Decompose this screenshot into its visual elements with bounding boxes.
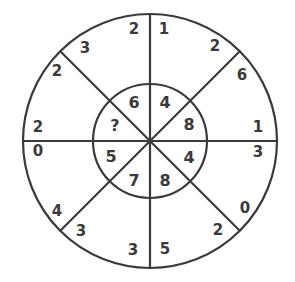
outer-number: 2 bbox=[210, 37, 220, 55]
outer-number: 2 bbox=[129, 20, 139, 38]
inner-number: 8 bbox=[159, 171, 170, 190]
outer-number: 3 bbox=[80, 39, 90, 57]
outer-number: 1 bbox=[253, 118, 263, 136]
outer-number: 2 bbox=[52, 62, 62, 80]
inner-number: 4 bbox=[183, 148, 194, 167]
outer-number: 0 bbox=[33, 142, 43, 160]
number-wheel-puzzle: 6484875? 2126130253340223 bbox=[0, 0, 295, 282]
outer-number: 0 bbox=[240, 199, 250, 217]
outer-number: 5 bbox=[160, 240, 170, 258]
outer-number: 3 bbox=[128, 241, 138, 259]
inner-number: 7 bbox=[128, 171, 139, 190]
outer-number: 3 bbox=[76, 222, 86, 240]
outer-number: 3 bbox=[253, 143, 263, 161]
inner-number: 5 bbox=[105, 147, 116, 166]
outer-number: 2 bbox=[213, 221, 223, 239]
inner-number: 4 bbox=[159, 93, 170, 112]
outer-number: 4 bbox=[52, 202, 62, 220]
outer-number: 6 bbox=[237, 66, 247, 84]
inner-number: 8 bbox=[183, 115, 194, 134]
unknown-number: ? bbox=[110, 116, 119, 135]
outer-number: 1 bbox=[159, 20, 169, 38]
inner-number: 6 bbox=[128, 93, 139, 112]
outer-number: 2 bbox=[33, 118, 43, 136]
